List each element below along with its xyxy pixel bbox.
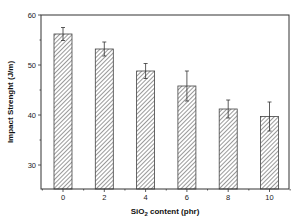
x-tick-label: 0	[61, 193, 65, 202]
x-axis: 0246810	[42, 189, 290, 202]
y-tick-label: 60	[28, 11, 36, 20]
x-tick-label: 2	[102, 193, 106, 202]
x-tick-label: 10	[265, 193, 273, 202]
y-axis: 30405060	[28, 11, 41, 170]
bar-6	[178, 71, 196, 189]
x-axis-title: SiO2 content (phr)	[131, 207, 200, 217]
x-tick-label: 6	[185, 193, 189, 202]
y-tick-label: 50	[28, 61, 36, 70]
bars-group	[54, 28, 279, 190]
bar-2	[95, 42, 113, 189]
bar-0	[54, 28, 72, 190]
bar-4	[137, 64, 155, 190]
bar-10	[261, 102, 279, 189]
bar-8	[219, 100, 237, 189]
bar-chart: 30405060 0246810 Impact Strenght (J/m) S…	[0, 0, 308, 223]
y-tick-label: 30	[28, 161, 36, 170]
y-tick-label: 40	[28, 111, 36, 120]
y-axis-title: Impact Strenght (J/m)	[6, 61, 15, 144]
plot-frame	[41, 15, 289, 189]
x-tick-label: 8	[226, 193, 230, 202]
x-tick-label: 4	[144, 193, 148, 202]
